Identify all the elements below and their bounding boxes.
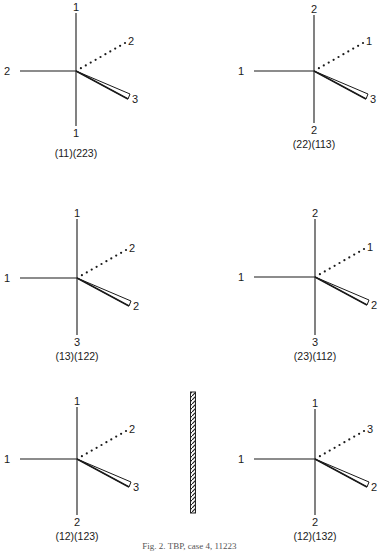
dotted-bond-dot xyxy=(96,447,98,449)
structure-notation: (22)(113) xyxy=(293,138,335,150)
label-bottom: 2 xyxy=(312,516,318,528)
dotted-bond-dot xyxy=(90,62,92,64)
dotted-bond-dot xyxy=(318,67,320,69)
label-wedge: 3 xyxy=(132,93,138,105)
dotted-bond-dot xyxy=(338,262,340,264)
dotted-bond-dot xyxy=(363,248,365,250)
structure-2: 21132(22)(113) xyxy=(238,3,376,150)
mirror-plane xyxy=(191,392,196,513)
dotted-bond-dot xyxy=(114,48,116,50)
structure-4: 21123(23)(112) xyxy=(238,207,377,362)
dotted-bond-dot xyxy=(323,64,325,66)
structure-6: 11322(12)(132) xyxy=(238,397,377,542)
dotted-bond-dot xyxy=(125,430,127,432)
dotted-bond-dot xyxy=(119,45,121,47)
dotted-bond-dot xyxy=(86,271,88,273)
label-bottom: 2 xyxy=(311,124,317,136)
dotted-bond-dot xyxy=(110,257,112,259)
label-dotted: 2 xyxy=(128,35,134,47)
dotted-bond-dot xyxy=(329,268,331,270)
label-left: 1 xyxy=(4,272,10,284)
dotted-bond-dot xyxy=(120,252,122,254)
dotted-bond-dot xyxy=(115,436,117,438)
label-left: 1 xyxy=(238,65,244,77)
structure-5: 11232(12)(123) xyxy=(4,395,139,542)
label-wedge: 2 xyxy=(371,299,377,311)
label-top: 1 xyxy=(73,1,79,13)
wedge-bond-edge xyxy=(76,71,128,99)
label-wedge: 2 xyxy=(371,481,377,493)
dotted-bond-dot xyxy=(328,62,330,64)
dotted-bond-dot xyxy=(324,270,326,272)
dotted-bond-dot xyxy=(120,433,122,435)
label-top: 1 xyxy=(312,397,318,409)
dotted-bond-dot xyxy=(81,274,83,276)
dotted-bond-dot xyxy=(319,273,321,275)
dotted-bond-dot xyxy=(343,259,345,261)
label-wedge: 3 xyxy=(133,481,139,493)
wedge-bond-edge xyxy=(314,71,366,99)
structure-1: 12231(11)(223) xyxy=(4,1,138,159)
dotted-bond-dot xyxy=(91,269,93,271)
dotted-bond-dot xyxy=(334,447,336,449)
dotted-bond-dot xyxy=(347,50,349,52)
dotted-bond-dot xyxy=(352,48,354,50)
dotted-bond-dot xyxy=(110,438,112,440)
dotted-bond-dot xyxy=(348,256,350,258)
dotted-bond-dot xyxy=(362,42,364,44)
label-top: 1 xyxy=(74,395,80,407)
dotted-bond-dot xyxy=(358,433,360,435)
mirror-plane-hatch xyxy=(191,392,196,513)
dotted-bond-dot xyxy=(353,436,355,438)
dotted-bond-dot xyxy=(95,59,97,61)
label-dotted: 1 xyxy=(366,35,372,47)
label-dotted: 2 xyxy=(129,423,135,435)
label-bottom: 2 xyxy=(74,516,80,528)
dotted-bond-dot xyxy=(115,255,117,257)
label-top: 1 xyxy=(74,207,80,219)
label-left: 1 xyxy=(4,453,10,465)
structure-3: 11223(13)(122) xyxy=(4,207,139,362)
wedge-bond-edge xyxy=(77,459,129,487)
dotted-bond-dot xyxy=(80,67,82,69)
dotted-bond-dot xyxy=(85,64,87,66)
structure-notation: (11)(223) xyxy=(55,147,97,159)
dotted-bond-dot xyxy=(96,266,98,268)
label-left: 1 xyxy=(238,453,244,465)
dotted-bond-dot xyxy=(105,441,107,443)
label-dotted: 2 xyxy=(129,242,135,254)
dotted-bond-dot xyxy=(348,438,350,440)
wedge-bond-edge xyxy=(315,277,367,305)
label-bottom: 1 xyxy=(73,127,79,139)
dotted-bond-dot xyxy=(125,249,127,251)
label-bottom: 3 xyxy=(312,336,318,348)
wedge-bond-edge xyxy=(315,459,367,487)
dotted-bond-dot xyxy=(353,254,355,256)
figure-canvas: 12231(11)(223)21132(22)(113)11223(13)(12… xyxy=(0,0,379,555)
dotted-bond-dot xyxy=(357,45,359,47)
dotted-bond-dot xyxy=(333,59,335,61)
label-bottom: 3 xyxy=(74,336,80,348)
label-wedge: 2 xyxy=(133,300,139,312)
label-top: 2 xyxy=(312,207,318,219)
structure-notation: (13)(122) xyxy=(55,350,98,362)
dotted-bond-dot xyxy=(100,444,102,446)
dotted-bond-dot xyxy=(86,452,88,454)
dotted-bond-dot xyxy=(358,251,360,253)
dotted-bond-dot xyxy=(105,260,107,262)
dotted-bond-dot xyxy=(338,444,340,446)
dotted-bond-dot xyxy=(342,53,344,55)
dotted-bond-dot xyxy=(99,56,101,58)
label-wedge: 3 xyxy=(370,93,376,105)
label-top: 2 xyxy=(311,3,317,15)
structure-notation: (23)(112) xyxy=(294,350,336,362)
figure-caption: Fig. 2. TBP, case 4, 11223 xyxy=(0,541,379,551)
label-left: 2 xyxy=(4,65,10,77)
label-dotted: 3 xyxy=(367,423,373,435)
dotted-bond-dot xyxy=(363,430,365,432)
dotted-bond-dot xyxy=(319,455,321,457)
dotted-bond-dot xyxy=(329,450,331,452)
dotted-bond-dot xyxy=(337,56,339,58)
wedge-bond-edge xyxy=(77,278,129,306)
label-left: 1 xyxy=(238,271,244,283)
